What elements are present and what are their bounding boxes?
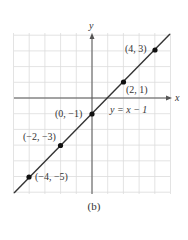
label-neg4-neg5: (−4, −5) — [35, 171, 68, 183]
label-4-3: (4, 3) — [125, 43, 147, 55]
y-axis-arrow-icon — [90, 33, 95, 39]
label-2-1: (2, 1) — [126, 84, 148, 96]
x-axis-arrow-icon — [166, 96, 172, 101]
y-axis-label: y — [88, 20, 94, 31]
point-neg2-neg3 — [58, 143, 63, 148]
label-0-neg1: (0, −1) — [55, 108, 82, 120]
label-neg2-neg3: (−2, −3) — [23, 131, 56, 143]
point-neg4-neg5 — [26, 174, 31, 179]
figure-caption: (b) — [0, 200, 188, 212]
point-0-neg1 — [89, 111, 94, 116]
point-4-3 — [152, 47, 157, 52]
equation-label: y = x − 1 — [109, 104, 147, 115]
x-axis-label: x — [174, 92, 180, 103]
